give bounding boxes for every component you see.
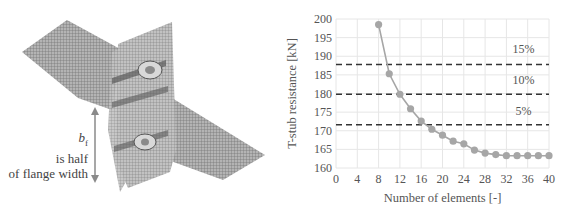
data-point [492, 151, 499, 158]
data-point [396, 91, 403, 98]
x-tick-label: 8 [376, 172, 382, 186]
t-stub-mesh-illustration [0, 0, 290, 214]
y-tick-label: 185 [314, 68, 332, 82]
y-tick-label: 190 [314, 49, 332, 63]
data-point [545, 152, 552, 159]
data-point [513, 152, 520, 159]
bf-symbol: bf [0, 130, 88, 151]
annotation-line-1: is half [0, 151, 88, 166]
x-tick-label: 0 [333, 172, 339, 186]
data-point [407, 105, 414, 112]
x-tick-label: 12 [394, 172, 406, 186]
x-axis-label: Number of elements [-] [384, 191, 502, 205]
data-point [503, 152, 510, 159]
y-tick-label: 165 [314, 142, 332, 156]
data-point [439, 132, 446, 139]
data-point [535, 152, 542, 159]
annotation-line-2: of flange width [0, 166, 88, 181]
bolt-contour-lower-inner [141, 139, 149, 146]
arrow-head-down-icon [91, 175, 99, 183]
y-tick-label: 195 [314, 31, 332, 45]
x-tick-label: 36 [522, 172, 534, 186]
data-point [418, 117, 425, 124]
data-point [524, 152, 531, 159]
band-label: 10% [512, 73, 534, 87]
x-tick-label: 28 [479, 172, 491, 186]
arrow-head-up-icon [91, 107, 99, 115]
x-tick-label: 20 [437, 172, 449, 186]
bolt-contour-upper-inner [145, 66, 155, 74]
chart-canvas: 1601651701751801851901952000481216202428… [280, 0, 564, 214]
band-label: 5% [515, 104, 531, 118]
data-point [428, 126, 435, 133]
data-point [450, 138, 457, 145]
data-point [460, 140, 467, 147]
y-tick-label: 180 [314, 87, 332, 101]
resistance-chart: 1601651701751801851901952000481216202428… [280, 0, 564, 214]
flange-width-annotation: bf is half of flange width [0, 130, 88, 181]
data-point [471, 147, 478, 154]
x-tick-label: 40 [543, 172, 555, 186]
data-point [482, 150, 489, 157]
y-axis-label: T-stub resistance [kN] [285, 38, 299, 149]
fe-mesh-figure: bf is half of flange width [0, 0, 290, 214]
band-label: 15% [512, 42, 534, 56]
data-point [386, 70, 393, 77]
y-tick-label: 160 [314, 161, 332, 175]
x-tick-label: 24 [458, 172, 470, 186]
y-tick-label: 175 [314, 105, 332, 119]
y-tick-label: 170 [314, 124, 332, 138]
x-tick-label: 32 [500, 172, 512, 186]
data-point [375, 21, 382, 28]
y-tick-label: 200 [314, 12, 332, 26]
x-tick-label: 16 [415, 172, 427, 186]
x-tick-label: 4 [354, 172, 360, 186]
upper-flange-plate [22, 20, 122, 110]
